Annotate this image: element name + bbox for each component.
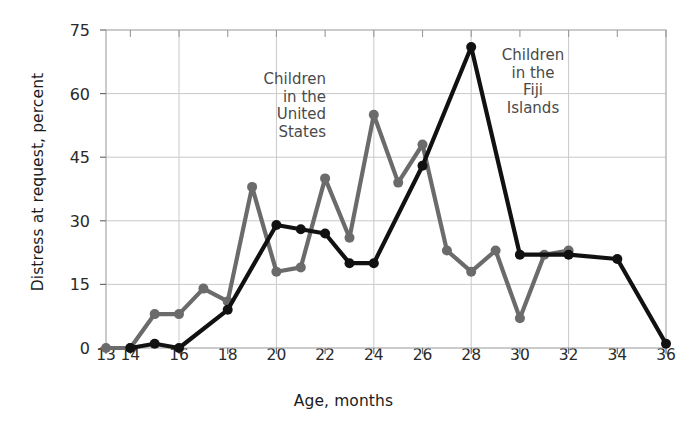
data-point <box>418 161 428 171</box>
data-point <box>345 233 355 243</box>
data-point <box>515 250 525 260</box>
data-point <box>369 258 379 268</box>
data-point <box>661 339 671 349</box>
data-point <box>174 309 184 319</box>
data-point <box>320 173 330 183</box>
data-point <box>101 343 111 353</box>
annotation-united-states: Children in the United States <box>187 71 326 142</box>
data-point <box>271 267 281 277</box>
data-point <box>418 140 428 150</box>
data-point <box>345 258 355 268</box>
data-point <box>125 343 135 353</box>
data-point <box>296 224 306 234</box>
data-point <box>296 262 306 272</box>
data-point <box>150 309 160 319</box>
data-point <box>150 339 160 349</box>
data-point <box>271 220 281 230</box>
data-point <box>198 284 208 294</box>
data-point <box>174 343 184 353</box>
data-point <box>466 267 476 277</box>
data-point <box>369 110 379 120</box>
data-point <box>442 246 452 256</box>
data-point <box>247 182 257 192</box>
annotation-fiji: Children in the Fiji Islands <box>474 47 592 118</box>
data-point <box>612 254 622 264</box>
data-point <box>223 305 233 315</box>
data-point <box>491 246 501 256</box>
data-point <box>393 178 403 188</box>
data-point <box>515 313 525 323</box>
data-point <box>320 229 330 239</box>
data-point <box>564 250 574 260</box>
chart-figure: Distress at request, percent Age, months… <box>0 0 687 429</box>
